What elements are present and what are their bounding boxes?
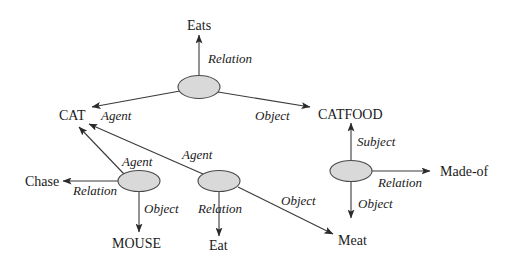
label-madeof-object: Object [358, 196, 393, 211]
concept-eats: Eats [187, 18, 211, 33]
label-chase-relation: Relation [72, 183, 117, 198]
concept-catfood: CATFOOD [318, 107, 383, 122]
label-madeof-relation: Relation [377, 175, 422, 190]
semantic-network-diagram: Eats CAT CATFOOD Chase MOUSE Eat Meat Ma… [0, 0, 515, 272]
label-chase-object: Object [144, 201, 179, 216]
concept-eat: Eat [209, 238, 228, 253]
relation-node-eat [198, 171, 240, 192]
concept-made-of: Made-of [440, 164, 489, 179]
edge-n1-agent-cat [92, 91, 180, 107]
edge-n1-object-catfood [218, 92, 310, 107]
label-chase-agent: Agent [121, 154, 153, 169]
concept-mouse: MOUSE [112, 236, 161, 251]
label-top-relation: Relation [207, 51, 252, 66]
edge-n2-agent-cat [79, 127, 124, 174]
relation-node-made-of [330, 161, 372, 182]
label-eat-agent: Agent [181, 147, 213, 162]
relation-node-chase [118, 171, 160, 192]
concept-chase: Chase [25, 174, 59, 189]
label-top-object: Object [255, 108, 290, 123]
concept-meat: Meat [338, 233, 367, 248]
label-top-agent: Agent [100, 108, 132, 123]
label-eat-object: Object [281, 193, 316, 208]
label-eat-relation: Relation [197, 201, 242, 216]
label-madeof-subject: Subject [357, 134, 396, 149]
concept-cat: CAT [59, 108, 86, 123]
relation-node-eats [178, 76, 220, 99]
